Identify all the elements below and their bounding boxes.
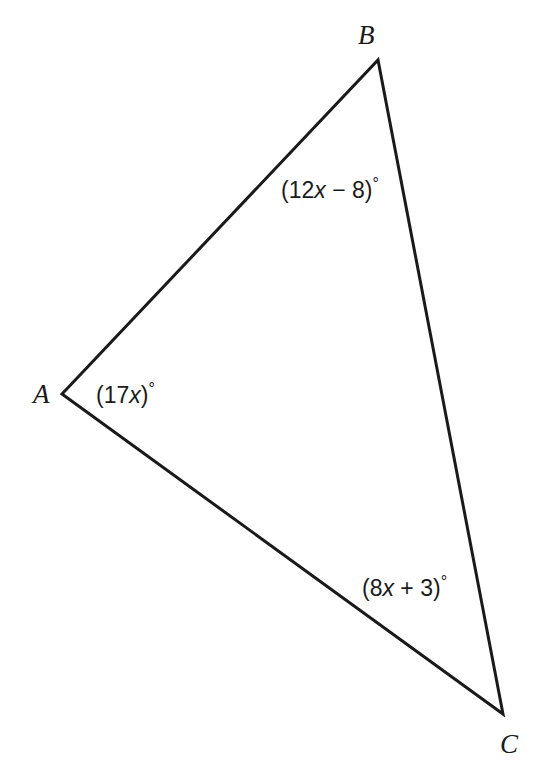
angle-a-open-paren: ( xyxy=(96,382,104,408)
angle-c-coefficient: 8 xyxy=(370,575,383,601)
vertex-label-b: B xyxy=(358,22,375,49)
triangle-diagram xyxy=(0,0,547,770)
angle-label-c: (8x + 3)° xyxy=(362,574,447,600)
angle-c-close-paren: ) xyxy=(433,575,441,601)
degree-symbol-icon: ° xyxy=(441,573,447,590)
angle-a-coefficient: 17 xyxy=(104,382,130,408)
angle-c-open-paren: ( xyxy=(362,575,370,601)
vertex-label-a: A xyxy=(33,381,50,408)
vertex-label-c: C xyxy=(500,731,518,758)
angle-b-open-paren: ( xyxy=(281,177,289,203)
angle-c-operator: + xyxy=(394,575,420,601)
angle-c-constant: 3 xyxy=(420,575,433,601)
angle-b-variable: x xyxy=(314,177,326,203)
degree-symbol-icon: ° xyxy=(372,175,378,192)
angle-label-a: (17x)° xyxy=(96,381,155,407)
angle-label-b: (12x − 8)° xyxy=(281,176,379,202)
angle-c-variable: x xyxy=(382,575,394,601)
angle-a-variable: x xyxy=(129,382,141,408)
angle-b-coefficient: 12 xyxy=(289,177,315,203)
angle-b-constant: 8 xyxy=(352,177,365,203)
degree-symbol-icon: ° xyxy=(148,380,154,397)
angle-b-operator: − xyxy=(326,177,352,203)
diagram-background xyxy=(0,0,547,770)
